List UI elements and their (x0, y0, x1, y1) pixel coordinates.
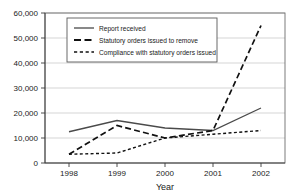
y-tick-marks (41, 13, 45, 163)
x-tick-label: 1999 (108, 169, 126, 178)
legend-label: Statutory orders issued to remove (99, 37, 198, 45)
x-tick-labels: 1998 1999 2000 2001 2002 (60, 169, 270, 178)
legend: Report received Statutory orders issued … (67, 18, 217, 62)
line-chart: 60,000 50,000 40,000 30,000 20,000 10,00… (0, 0, 297, 193)
y-tick-label: 20,000 (14, 109, 39, 118)
y-tick-label: 10,000 (14, 134, 39, 143)
chart-canvas: 60,000 50,000 40,000 30,000 20,000 10,00… (0, 0, 297, 193)
y-tick-label: 30,000 (14, 84, 39, 93)
y-tick-label: 0 (34, 159, 39, 168)
x-tick-marks (69, 163, 261, 167)
x-tick-label: 2000 (156, 169, 174, 178)
y-tick-label: 60,000 (14, 9, 39, 18)
legend-label: Compliance with statutory orders issued (99, 49, 216, 57)
x-axis-title: Year (156, 182, 174, 192)
y-tick-label: 50,000 (14, 34, 39, 43)
legend-label: Report received (99, 25, 146, 33)
x-tick-label: 2002 (252, 169, 270, 178)
y-tick-label: 40,000 (14, 59, 39, 68)
x-tick-label: 1998 (60, 169, 78, 178)
y-tick-labels: 60,000 50,000 40,000 30,000 20,000 10,00… (14, 9, 39, 168)
x-tick-label: 2001 (204, 169, 222, 178)
